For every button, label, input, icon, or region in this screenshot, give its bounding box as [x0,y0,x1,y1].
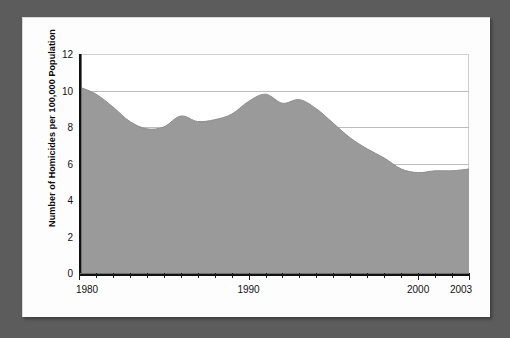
y-tick-label: 12 [62,49,73,60]
x-tick [181,273,182,278]
x-tick [266,273,267,278]
x-tick [435,273,436,278]
x-tick [452,273,453,278]
x-tick [299,273,300,278]
x-tick [232,273,233,278]
plot-area: 024681012 1980199020002003 [79,54,469,273]
area-fill [79,87,469,273]
y-axis-title: Number of Homicides per 100,000 Populati… [47,13,57,243]
x-tick-label: 1980 [76,284,98,295]
x-tick [418,273,419,280]
area-series [79,54,470,274]
x-tick [401,273,402,278]
x-tick [282,273,283,278]
x-tick-label: 2003 [450,284,472,295]
y-tick-label: 10 [62,85,73,96]
x-tick [350,273,351,278]
x-tick [215,273,216,278]
x-tick [113,273,114,278]
x-tick-label: 1990 [237,284,259,295]
x-tick [164,273,165,278]
y-tick-label: 2 [67,231,73,242]
figure-frame: Number of Homicides per 100,000 Populati… [0,0,510,338]
x-tick [384,273,385,278]
x-tick [367,273,368,278]
y-tick-label: 8 [67,122,73,133]
x-tick [333,273,334,278]
y-tick-label: 0 [67,268,73,279]
x-tick [249,273,250,280]
x-tick [469,273,470,280]
x-tick [198,273,199,278]
x-tick [316,273,317,278]
x-axis-line [79,273,470,276]
y-axis-line [79,54,82,274]
x-tick-label: 2000 [407,284,429,295]
x-tick [96,273,97,278]
x-tick [130,273,131,278]
x-tick [79,273,80,280]
y-tick-label: 4 [67,195,73,206]
y-tick-label: 6 [67,158,73,169]
figure-panel: Number of Homicides per 100,000 Populati… [22,17,490,317]
x-tick [147,273,148,278]
